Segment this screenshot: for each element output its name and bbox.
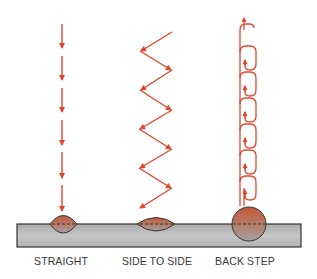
back-step-chain xyxy=(240,18,256,206)
welding-techniques-diagram xyxy=(0,0,317,279)
zigzag-arrows xyxy=(139,32,172,208)
label-straight: STRAIGHT xyxy=(34,255,88,267)
label-side-to-side: SIDE TO SIDE xyxy=(122,255,192,267)
label-back-step: BACK STEP xyxy=(215,255,275,267)
back-step-bead xyxy=(232,207,266,241)
